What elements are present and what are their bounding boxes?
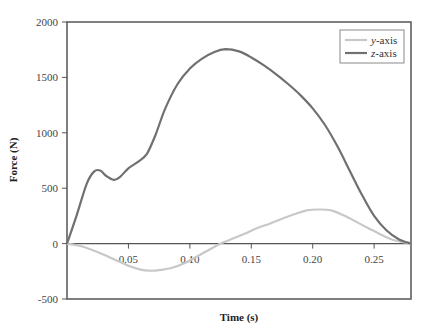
y-tick-label: 500 — [42, 182, 59, 194]
x-tick-label: 0.20 — [303, 253, 323, 265]
legend-label-y: y-axis — [370, 34, 397, 46]
series-line-y-axis — [67, 209, 411, 270]
legend: y-axis z-axis — [340, 30, 404, 63]
x-axis-ticks: 0.050.100.150.200.25 — [119, 244, 384, 265]
y-axis-title: Force (N) — [7, 137, 20, 182]
series-line-z-axis — [67, 49, 411, 244]
x-tick-label: 0.15 — [242, 253, 262, 265]
y-tick-label: 2000 — [36, 16, 59, 28]
y-axis-ticks: -5000500100015002000 — [36, 16, 67, 305]
data-series — [67, 49, 411, 271]
y-tick-label: -500 — [38, 293, 59, 305]
force-time-chart: -5000500100015002000 0.050.100.150.200.2… — [0, 0, 427, 332]
y-tick-label: 1500 — [36, 71, 59, 83]
x-axis-title: Time (s) — [220, 311, 259, 324]
x-tick-label: 0.25 — [365, 253, 385, 265]
y-tick-label: 0 — [53, 238, 59, 250]
y-tick-label: 1000 — [36, 127, 59, 139]
legend-label-z: z-axis — [370, 47, 397, 59]
